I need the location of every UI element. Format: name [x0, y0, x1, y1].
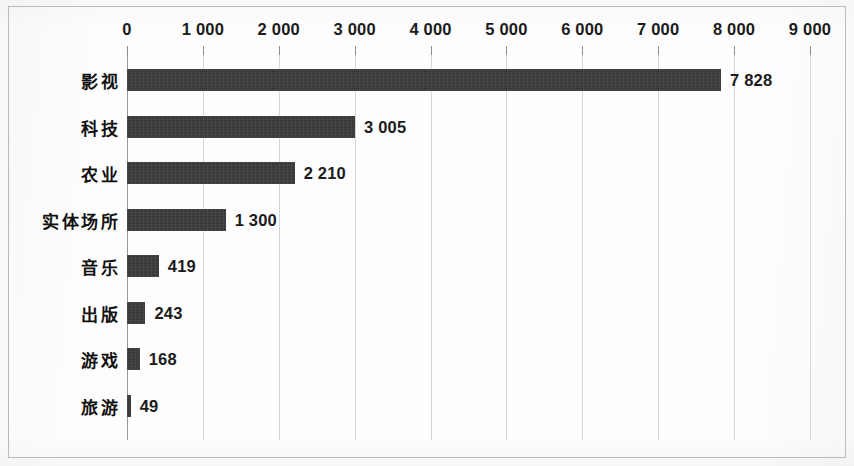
bar: [127, 395, 131, 417]
x-axis-tick-label: 4 000: [409, 20, 451, 39]
bar-value-label: 243: [154, 303, 182, 322]
bar-value-label: 49: [140, 396, 159, 415]
chart-screenshot: 01 0002 0003 0004 0005 0006 0007 0008 00…: [0, 0, 854, 466]
x-axis-tick-label: 1 000: [182, 20, 224, 39]
bar-row: 实体场所1 300: [0, 197, 854, 243]
bar-value-label: 1 300: [235, 210, 277, 229]
x-axis-tick-label: 8 000: [713, 20, 755, 39]
x-axis-tick-label: 0: [122, 20, 131, 39]
bar-value-label: 3 005: [364, 117, 406, 136]
bar: [127, 255, 159, 277]
bar-row: 影视7 828: [0, 57, 854, 103]
bar: [127, 116, 355, 138]
bar-row: 出版243: [0, 290, 854, 336]
bar: [127, 209, 226, 231]
bar-row: 游戏168: [0, 336, 854, 382]
bar-value-label: 168: [149, 350, 177, 369]
bar-row: 旅游49: [0, 383, 854, 429]
x-axis-tick-label: 3 000: [334, 20, 376, 39]
bar-value-label: 419: [168, 257, 196, 276]
category-label: 实体场所: [42, 207, 120, 232]
bar: [127, 69, 721, 91]
category-label: 农业: [81, 161, 120, 186]
bar: [127, 302, 145, 324]
bar: [127, 348, 140, 370]
category-label: 旅游: [81, 393, 120, 418]
x-axis-tick-label: 7 000: [637, 20, 679, 39]
x-axis-tick-label: 6 000: [561, 20, 603, 39]
category-label: 音乐: [81, 254, 120, 279]
bar-row: 音乐419: [0, 243, 854, 289]
x-axis-tick-label: 5 000: [485, 20, 527, 39]
category-label: 游戏: [81, 347, 120, 372]
x-axis-tick-label: 2 000: [258, 20, 300, 39]
bar-value-label: 2 210: [304, 164, 346, 183]
bar-value-label: 7 828: [730, 71, 772, 90]
category-label: 出版: [81, 300, 120, 325]
bar: [127, 162, 295, 184]
bar-row: 科技3 005: [0, 104, 854, 150]
x-axis-tick-label: 9 000: [789, 20, 831, 39]
category-label: 科技: [81, 114, 120, 139]
bar-row: 农业2 210: [0, 150, 854, 196]
category-label: 影视: [81, 68, 120, 93]
